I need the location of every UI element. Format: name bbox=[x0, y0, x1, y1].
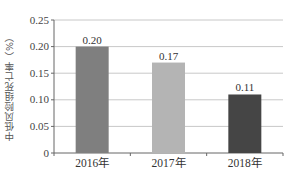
y-tick-label: 0 bbox=[44, 147, 50, 159]
x-tick-label: 2017年 bbox=[152, 156, 186, 169]
bar-chart: 00.050.100.150.200.250.202016年0.172017年0… bbox=[0, 0, 298, 176]
bar-2016年 bbox=[76, 47, 109, 153]
y-tick-label: 0.15 bbox=[30, 67, 50, 79]
bar-2018年 bbox=[228, 94, 261, 153]
y-tick-label: 0.25 bbox=[30, 14, 50, 26]
data-label: 0.17 bbox=[159, 50, 179, 62]
data-label: 0.20 bbox=[83, 34, 103, 46]
data-label: 0.11 bbox=[235, 81, 254, 93]
y-tick-label: 0.20 bbox=[30, 40, 50, 52]
y-tick-label: 0.10 bbox=[30, 93, 50, 105]
x-tick-label: 2016年 bbox=[75, 156, 109, 169]
bar-2017年 bbox=[152, 63, 185, 153]
x-tick-label: 2018年 bbox=[228, 156, 262, 169]
y-tick-label: 0.05 bbox=[30, 120, 50, 132]
